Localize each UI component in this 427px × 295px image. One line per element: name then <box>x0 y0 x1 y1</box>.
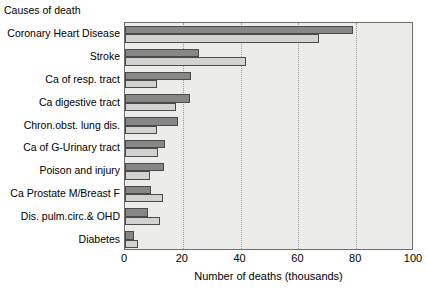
bar <box>125 140 165 148</box>
bar <box>125 148 158 156</box>
bar-series-container <box>125 23 412 249</box>
category-label: Chron.obst. lung dis. <box>0 119 120 131</box>
x-tick-label: 0 <box>121 252 127 265</box>
category-label: Diabetes <box>0 233 120 245</box>
bar <box>125 117 178 125</box>
chart-figure: Causes of death Coronary Heart DiseaseSt… <box>0 0 427 295</box>
bar <box>125 126 157 134</box>
x-tick-label: 40 <box>233 252 245 265</box>
bar-group <box>125 69 412 92</box>
x-tick-label: 80 <box>349 252 361 265</box>
bar <box>125 34 319 42</box>
bar <box>125 217 160 225</box>
category-label: Stroke <box>0 50 120 62</box>
bar <box>125 231 134 239</box>
category-label: Ca digestive tract <box>0 96 120 108</box>
bar-group <box>125 205 412 228</box>
x-tick-label: 20 <box>176 252 188 265</box>
bar-group <box>125 46 412 69</box>
category-label: Poison and injury <box>0 164 120 176</box>
category-labels: Coronary Heart DiseaseStrokeCa of resp. … <box>0 22 120 250</box>
bar <box>125 57 246 65</box>
category-label: Ca Prostate M/Breast F <box>0 187 120 199</box>
bar <box>125 49 199 57</box>
x-axis-ticks: 020406080100 <box>0 252 427 268</box>
x-tick-label: 60 <box>291 252 303 265</box>
bar-group <box>125 23 412 46</box>
bar-group <box>125 91 412 114</box>
category-axis-title: Causes of death <box>4 4 80 16</box>
bar <box>125 72 191 80</box>
x-axis-title: Number of deaths (thousands) <box>124 270 413 283</box>
category-label: Coronary Heart Disease <box>0 27 120 39</box>
plot-area <box>124 22 413 250</box>
bar <box>125 171 150 179</box>
category-label: Dis. pulm.circ.& OHD <box>0 210 120 222</box>
bar <box>125 240 138 248</box>
bar-group <box>125 228 412 251</box>
x-tick-label: 100 <box>404 252 422 265</box>
bar <box>125 80 157 88</box>
bar-group <box>125 137 412 160</box>
bar-group <box>125 160 412 183</box>
bar <box>125 186 151 194</box>
bar <box>125 103 176 111</box>
bar <box>125 208 148 216</box>
bar <box>125 94 190 102</box>
bar-group <box>125 114 412 137</box>
bar-group <box>125 183 412 206</box>
bar <box>125 26 353 34</box>
category-label: Ca of resp. tract <box>0 73 120 85</box>
category-label: Ca of G-Urinary tract <box>0 141 120 153</box>
bar <box>125 163 164 171</box>
bar <box>125 194 163 202</box>
